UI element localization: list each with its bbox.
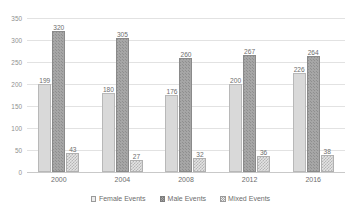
bar-mixed-2016: 38 <box>321 155 334 172</box>
y-axis-tick-label: 150 <box>0 103 22 110</box>
bar-group: 20026736 <box>218 18 282 172</box>
bar-female-2008: 176 <box>165 95 178 172</box>
bar-male-2008: 260 <box>179 58 192 172</box>
y-axis-tick-label: 350 <box>0 15 22 22</box>
bar-mixed-2000: 43 <box>66 153 79 172</box>
legend-item-mixed[interactable]: Mixed Events <box>220 195 270 203</box>
bar-value-label: 27 <box>133 153 140 160</box>
bar-male-2000: 320 <box>52 31 65 172</box>
bar-value-label: 32 <box>196 151 203 158</box>
x-axis-tick-label: 2008 <box>178 176 194 184</box>
x-axis-tick-label: 2016 <box>305 176 321 184</box>
bar-value-label: 264 <box>308 49 319 56</box>
x-axis-tick-label: 2000 <box>51 176 67 184</box>
bar-value-label: 180 <box>103 86 114 93</box>
bar-value-label: 305 <box>117 31 128 38</box>
legend-item-male[interactable]: Male Events <box>160 195 207 203</box>
bar-male-2016: 264 <box>307 56 320 172</box>
legend-swatch-icon <box>220 196 226 202</box>
y-axis-tick-label: 100 <box>0 125 22 132</box>
bar-value-label: 226 <box>294 66 305 73</box>
x-axis-tick-label: 2012 <box>242 176 258 184</box>
bar-value-label: 176 <box>166 88 177 95</box>
bar-value-label: 43 <box>69 146 76 153</box>
bar-female-2004: 180 <box>102 93 115 172</box>
y-axis-tick-label: 50 <box>0 147 22 154</box>
bar-mixed-2004: 27 <box>130 160 143 172</box>
bar-value-label: 199 <box>39 77 50 84</box>
legend-label: Mixed Events <box>228 195 270 203</box>
bar-mixed-2008: 32 <box>193 158 206 172</box>
bar-group: 19932043 <box>27 18 91 172</box>
axis-baseline <box>27 172 345 173</box>
plot-area: 1993204318030527176260322002673622626438 <box>27 18 345 172</box>
bar-value-label: 200 <box>230 77 241 84</box>
legend-item-female[interactable]: Female Events <box>91 195 146 203</box>
bar-group: 17626032 <box>154 18 218 172</box>
y-axis-tick-label: 300 <box>0 37 22 44</box>
y-axis-tick-label: 200 <box>0 81 22 88</box>
bar-female-2000: 199 <box>38 84 51 172</box>
chart-legend: Female EventsMale EventsMixed Events <box>0 195 361 203</box>
y-axis-tick-label: 0 <box>0 169 22 176</box>
legend-swatch-icon <box>91 196 97 202</box>
bar-value-label: 267 <box>244 48 255 55</box>
x-axis: 20002004200820122016 <box>27 174 345 188</box>
y-axis-tick-label: 250 <box>0 59 22 66</box>
bar-male-2004: 305 <box>116 38 129 172</box>
bar-mixed-2012: 36 <box>257 156 270 172</box>
bar-value-label: 260 <box>180 51 191 58</box>
bar-value-label: 320 <box>53 24 64 31</box>
bar-male-2012: 267 <box>243 55 256 172</box>
bar-group: 18030527 <box>91 18 155 172</box>
bar-group: 22626438 <box>281 18 345 172</box>
x-axis-tick-label: 2004 <box>115 176 131 184</box>
bar-chart: 050100150200250300350 199320431803052717… <box>0 0 361 217</box>
bar-value-label: 38 <box>324 148 331 155</box>
legend-swatch-icon <box>160 196 166 202</box>
bar-female-2016: 226 <box>293 73 306 172</box>
legend-label: Male Events <box>168 195 207 203</box>
bar-value-label: 36 <box>260 149 267 156</box>
legend-label: Female Events <box>99 195 146 203</box>
bar-female-2012: 200 <box>229 84 242 172</box>
